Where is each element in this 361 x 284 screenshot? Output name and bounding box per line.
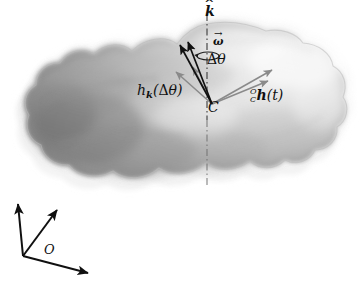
delta-symbol: Δ bbox=[158, 82, 168, 98]
frame-axis-up bbox=[18, 204, 23, 256]
vector-arrow-accent-icon: → bbox=[214, 29, 222, 39]
hat-accent-icon: ^ bbox=[204, 0, 214, 10]
label-center-C: C bbox=[208, 100, 219, 114]
paren-close: ) bbox=[177, 82, 182, 98]
h-letter: h bbox=[257, 87, 267, 103]
label-omega: →ω bbox=[213, 36, 223, 47]
k-subscript: k bbox=[146, 89, 153, 100]
theta-symbol: θ bbox=[169, 82, 177, 98]
rigid-body-rotation-figure: ^k →ω Δθ hk(Δθ) C OCh(t) O bbox=[0, 0, 361, 284]
label-h-of-t: OCh(t) bbox=[250, 88, 283, 105]
theta-symbol: θ bbox=[217, 51, 225, 67]
delta-symbol: Δ bbox=[207, 51, 217, 67]
paren-close: ) bbox=[278, 87, 283, 103]
frame-axis-down-right bbox=[23, 256, 88, 273]
h-letter: h bbox=[137, 82, 146, 98]
label-k-hat: ^k bbox=[205, 4, 215, 18]
label-h-k-delta-theta: hk(Δθ) bbox=[137, 83, 182, 100]
world-frame-O bbox=[18, 204, 88, 273]
label-frame-origin-O: O bbox=[44, 243, 55, 256]
label-delta-theta: Δθ bbox=[207, 52, 226, 66]
